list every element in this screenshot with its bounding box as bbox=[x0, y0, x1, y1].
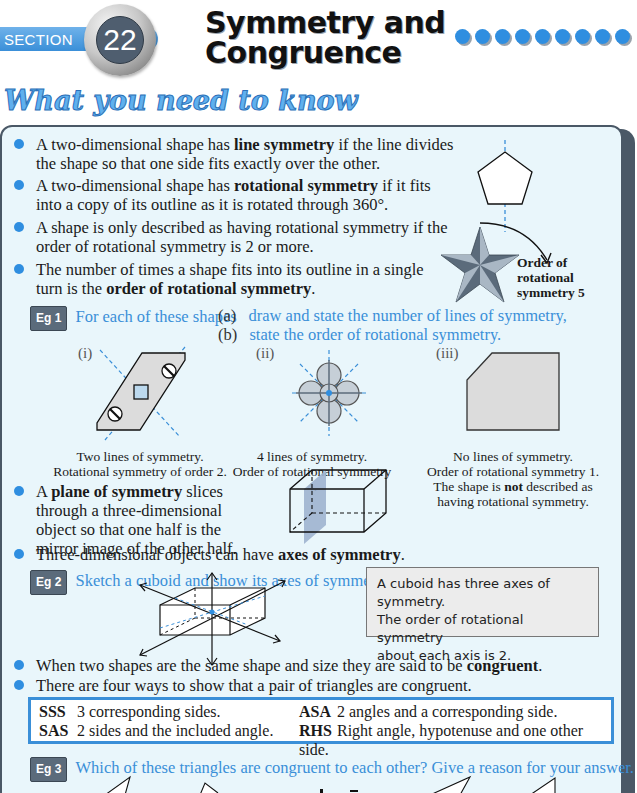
dot-icon bbox=[455, 29, 470, 44]
caption-line: 4 lines of symmetry. bbox=[232, 449, 392, 464]
section-label: SECTION bbox=[4, 31, 73, 48]
title-line-2: Congruence bbox=[205, 38, 445, 68]
caption-line: having rotational symmetry. bbox=[418, 494, 608, 509]
bullet-term: order of rotational symmetry bbox=[106, 279, 311, 298]
eg3-tag: Eg 3 bbox=[30, 757, 67, 782]
bullet-text: . bbox=[311, 279, 315, 298]
shape-iii-pentagon bbox=[466, 352, 562, 432]
shape-ii-label: (ii) bbox=[256, 345, 274, 362]
caption-line: The shape is not described as bbox=[418, 479, 608, 494]
bullet-text: . bbox=[401, 545, 405, 564]
eg1-part-b: (b) state the order of rotational symmet… bbox=[218, 325, 501, 344]
eg3-triangles-partial bbox=[100, 775, 560, 793]
shape-iii-caption: No lines of symmetry. Order of rotationa… bbox=[418, 449, 608, 509]
eg2-note-box: A cuboid has three axes of symmetry. The… bbox=[366, 567, 599, 637]
dot-icon bbox=[615, 29, 630, 44]
criterion-sss: SSS3 corresponding sides. bbox=[39, 702, 221, 721]
eg1-part-a: (a) draw and state the number of lines o… bbox=[218, 306, 567, 325]
part-label: (a) bbox=[218, 306, 236, 325]
section-heading: What you need to know bbox=[4, 85, 358, 116]
cuboid-plane-figure bbox=[290, 467, 390, 547]
congruence-criteria-box: SSS3 corresponding sides. SAS2 sides and… bbox=[28, 697, 614, 744]
caption-text: described as bbox=[523, 479, 593, 494]
star-caption-line: rotational bbox=[517, 270, 585, 285]
bullet-text: A two-dimensional shape has bbox=[36, 176, 234, 195]
criterion-code: SSS bbox=[39, 702, 77, 721]
criterion-rhs: RHSRight angle, hypotenuse and one other… bbox=[299, 721, 611, 759]
decorative-dots bbox=[455, 29, 637, 49]
bullet-text: A shape is only described as having rota… bbox=[36, 218, 448, 256]
bullet-text: A bbox=[36, 482, 51, 501]
bullet-text: When two shapes are the same shape and s… bbox=[36, 656, 467, 675]
shape-i-parallelogram bbox=[85, 345, 195, 445]
criterion-code: SAS bbox=[39, 721, 77, 740]
bullet-order-requirement: A shape is only described as having rota… bbox=[14, 218, 454, 256]
caption-emphasis: not bbox=[504, 479, 523, 494]
bullet-line-symmetry: A two-dimensional shape has line symmetr… bbox=[14, 135, 454, 173]
criterion-asa: ASA2 angles and a corresponding side. bbox=[299, 702, 557, 721]
caption-line: Two lines of symmetry. bbox=[40, 449, 240, 464]
shape-i-caption: Two lines of symmetry. Rotational symmet… bbox=[40, 449, 240, 479]
bullet-congruent: When two shapes are the same shape and s… bbox=[14, 656, 594, 675]
criterion-text: 3 corresponding sides. bbox=[77, 703, 221, 720]
dot-icon bbox=[495, 29, 510, 44]
part-text: state the order of rotational symmetry. bbox=[249, 325, 501, 344]
bullet-text: . bbox=[538, 656, 542, 675]
criterion-code: RHS bbox=[299, 721, 337, 740]
dot-icon bbox=[515, 29, 530, 44]
criterion-text: 2 angles and a corresponding side. bbox=[337, 703, 557, 720]
caption-line: Rotational symmetry of order 2. bbox=[40, 464, 240, 479]
note-line: A cuboid has three axes of symmetry. bbox=[377, 575, 588, 611]
dot-icon bbox=[475, 29, 490, 44]
bullet-axes-of-symmetry: Three-dimensional objects can have axes … bbox=[14, 545, 574, 564]
criterion-sas: SAS2 sides and the included angle. bbox=[39, 721, 273, 740]
dot-icon bbox=[595, 29, 610, 44]
bullet-four-ways: There are four ways to show that a pair … bbox=[14, 676, 594, 695]
note-line: The order of rotational symmetry bbox=[377, 611, 588, 647]
bullet-order-definition: The number of times a shape fits into it… bbox=[14, 260, 454, 298]
bullet-term: axes of symmetry bbox=[278, 545, 401, 564]
caption-line: No lines of symmetry. bbox=[418, 449, 608, 464]
caption-line: Order of rotational symmetry 1. bbox=[418, 464, 608, 479]
section-number-badge: 22 bbox=[96, 16, 144, 64]
page-title: Symmetry and Congruence bbox=[205, 8, 445, 68]
star-icon bbox=[446, 225, 526, 305]
dot-icon bbox=[575, 29, 590, 44]
star-caption-line: Order of bbox=[517, 255, 585, 270]
star-caption: Order of rotational symmetry 5 bbox=[517, 255, 585, 300]
shape-ii-flower bbox=[292, 350, 372, 435]
bullet-term: plane of symmetry bbox=[51, 482, 182, 501]
eg1-prompt: For each of these shapes bbox=[75, 307, 236, 326]
bullet-text: There are four ways to show that a pair … bbox=[36, 676, 472, 695]
bullet-term: rotational symmetry bbox=[234, 176, 378, 195]
bullet-text: A two-dimensional shape has bbox=[36, 135, 234, 154]
title-line-1: Symmetry and bbox=[205, 8, 445, 38]
cuboid-axes-figure bbox=[140, 573, 285, 663]
criterion-text: 2 sides and the included angle. bbox=[77, 722, 273, 739]
caption-text: The shape is bbox=[433, 479, 504, 494]
dot-icon bbox=[535, 29, 550, 44]
eg2-tag: Eg 2 bbox=[30, 570, 67, 595]
eg1-tag: Eg 1 bbox=[30, 306, 67, 331]
part-label: (b) bbox=[218, 325, 237, 344]
bullet-rotational-symmetry: A two-dimensional shape has rotational s… bbox=[14, 176, 454, 214]
criterion-text: Right angle, hypotenuse and one other si… bbox=[299, 722, 583, 758]
bullet-term: congruent bbox=[467, 656, 539, 675]
shape-iii-label: (iii) bbox=[436, 345, 459, 362]
star-caption-line: symmetry 5 bbox=[517, 285, 585, 300]
bullet-text: Three-dimensional objects can have bbox=[36, 545, 278, 564]
part-text: draw and state the number of lines of sy… bbox=[248, 306, 566, 325]
dot-icon bbox=[555, 29, 570, 44]
criterion-code: ASA bbox=[299, 702, 337, 721]
bullet-term: line symmetry bbox=[234, 135, 334, 154]
eg1-row: Eg 1 For each of these shapes bbox=[30, 306, 237, 331]
